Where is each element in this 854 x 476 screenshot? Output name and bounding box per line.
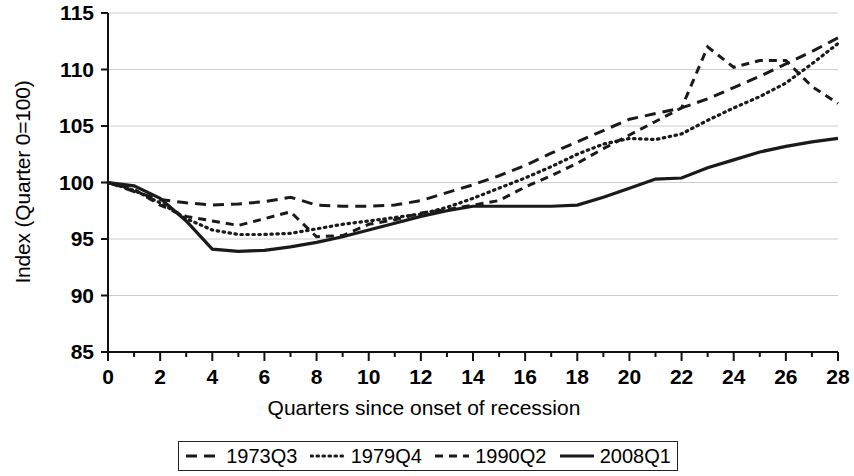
x-tick-label: 14 (453, 366, 493, 387)
legend-swatch-dashed-icon (185, 450, 221, 462)
x-tick-label: 20 (609, 366, 649, 387)
x-tick-label: 0 (88, 366, 128, 387)
y-tick-label: 100 (32, 172, 94, 193)
legend-item-1990q2[interactable]: 1990Q2 (434, 446, 546, 466)
series-line-2008q1 (108, 138, 838, 251)
chart-legend: 1973Q31979Q41990Q22008Q1 (178, 441, 678, 471)
y-tick-label: 95 (32, 228, 94, 249)
legend-item-1973q3[interactable]: 1973Q3 (185, 446, 297, 466)
x-tick-label: 16 (505, 366, 545, 387)
x-axis-title: Quarters since onset of recession (0, 396, 848, 420)
x-tick-label: 24 (714, 366, 754, 387)
x-tick-label: 10 (349, 366, 389, 387)
x-tick-label: 18 (557, 366, 597, 387)
y-tick-label: 110 (32, 59, 94, 80)
legend-label: 1990Q2 (475, 446, 546, 466)
legend-swatch-solid-icon (559, 450, 595, 462)
x-tick-label: 12 (401, 366, 441, 387)
x-tick-label: 22 (662, 366, 702, 387)
series-line-1973q3 (108, 38, 838, 206)
y-tick-label: 105 (32, 115, 94, 136)
legend-item-2008q1[interactable]: 2008Q1 (559, 446, 671, 466)
series-line-1990q2 (108, 47, 838, 237)
legend-label: 1979Q4 (351, 446, 422, 466)
y-tick-label: 115 (32, 2, 94, 23)
x-tick-label: 26 (766, 366, 806, 387)
legend-swatch-dash-short-icon (434, 450, 470, 462)
x-tick-label: 8 (297, 366, 337, 387)
legend-swatch-dotted-icon (310, 450, 346, 462)
y-tick-label: 85 (32, 341, 94, 362)
x-tick-label: 2 (140, 366, 180, 387)
legend-item-1979q4[interactable]: 1979Q4 (310, 446, 422, 466)
x-tick-label: 4 (192, 366, 232, 387)
x-tick-label: 28 (818, 366, 854, 387)
legend-label: 1973Q3 (226, 446, 297, 466)
x-tick-label: 6 (244, 366, 284, 387)
y-tick-label: 90 (32, 285, 94, 306)
legend-label: 2008Q1 (600, 446, 671, 466)
